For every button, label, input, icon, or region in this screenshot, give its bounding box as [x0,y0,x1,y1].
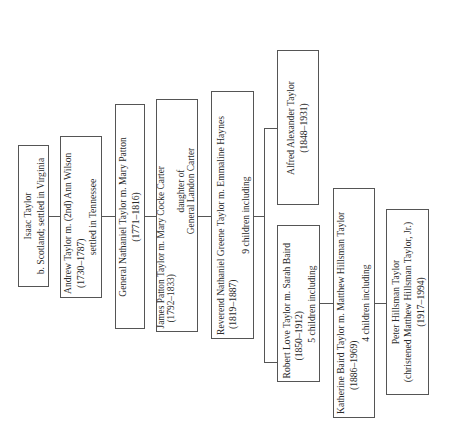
node-line: Alfred Alexander Taylor [285,54,298,201]
connector [264,362,277,363]
node-line: (christened Matthew Hillsman Taylor, Jr.… [401,213,414,391]
connector [49,216,60,217]
node-line: (1886–1969) [348,192,361,414]
node-line: Robert Love Taylor m. Sarah Baird [280,229,293,378]
node-text: Robert Love Taylor m. Sarah Baird (1850–… [277,225,320,382]
node-james-patton-taylor: James Patton Taylor m. Mary Cocke Carter… [156,99,198,332]
node-line: 4 children including [360,192,373,414]
connector [264,128,277,129]
node-line: settled in Tennessee [87,140,100,294]
node-line: (1917–1994) [414,213,427,391]
connector [102,216,115,217]
node-line: General Landon Carter [187,103,197,328]
node-line: Isaac Taylor [21,149,34,283]
node-line: (1730–1787) [75,140,88,294]
node-text: Katherine Baird Taylor m. Matthew Hillsm… [333,188,375,418]
node-text: General Nathaniel Taylor m. Mary Patton … [115,104,145,329]
node-general-nathaniel-taylor: General Nathaniel Taylor m. Mary Patton … [115,104,145,329]
node-line: 5 children including [305,229,318,378]
sibling-bracket [264,128,265,363]
connector [320,303,333,304]
node-text: Peter Hillsman Taylor (christened Matthe… [386,209,429,395]
connector [375,303,386,304]
node-text: Reverend Nathaniel Greene Taylor m. Emma… [211,91,254,339]
node-line: Andrew Taylor m. (2nd) Ann Wilson [62,140,75,294]
node-text: Alfred Alexander Taylor (1848–1931) [277,50,319,205]
node-line: General Nathaniel Taylor m. Mary Patton [117,108,130,325]
node-text: Isaac Taylor b. Scotland; settled in Vir… [18,145,49,287]
node-line: (1771–1816) [130,108,143,325]
node-text: James Patton Taylor m. Mary Cocke Carter… [156,99,198,332]
node-isaac-taylor: Isaac Taylor b. Scotland; settled in Vir… [18,145,49,287]
node-line: Peter Hillsman Taylor [389,213,402,391]
node-line: (1850–1912) [292,229,305,378]
node-katherine-baird-taylor: Katherine Baird Taylor m. Matthew Hillsm… [333,188,375,418]
node-peter-hillsman-taylor: Peter Hillsman Taylor (christened Matthe… [386,209,429,395]
connector [145,216,156,217]
connector [198,216,211,217]
node-alfred-alexander-taylor: Alfred Alexander Taylor (1848–1931) [277,50,319,205]
node-line: (1792–1833) [167,103,177,328]
node-line: b. Scotland; settled in Virginia [34,149,47,283]
connector [254,216,264,217]
node-robert-love-taylor: Robert Love Taylor m. Sarah Baird (1850–… [277,225,320,382]
node-text: Andrew Taylor m. (2nd) Ann Wilson (1730–… [60,136,102,298]
node-line: Katherine Baird Taylor m. Matthew Hillsm… [335,192,348,414]
node-reverend-nathaniel-greene-taylor: Reverend Nathaniel Greene Taylor m. Emma… [211,91,254,339]
node-andrew-taylor: Andrew Taylor m. (2nd) Ann Wilson (1730–… [60,136,102,298]
node-line: (1848–1931) [298,54,311,201]
node-line: 9 children including [239,95,252,335]
node-line: (1819–1887) [226,95,239,335]
node-line: Reverend Nathaniel Greene Taylor m. Emma… [214,95,227,335]
